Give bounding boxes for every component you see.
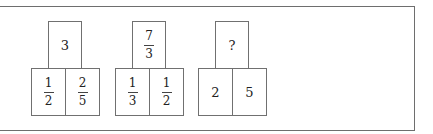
fraction-bar: [44, 92, 54, 93]
fraction: 1 3: [128, 77, 138, 108]
top-box: 3: [48, 21, 82, 69]
fraction-bar: [144, 45, 154, 46]
fraction: 1 2: [44, 77, 54, 108]
denominator: 5: [79, 95, 87, 108]
bottom-right-cell: 1 2: [149, 69, 183, 115]
bottom-right-cell: 5: [232, 69, 266, 115]
bottom-right-cell: 2 5: [65, 69, 99, 115]
numerator: 2: [79, 77, 87, 90]
bottom-left-cell: 1 2: [32, 69, 65, 115]
numerator: 1: [45, 77, 53, 90]
denominator: 2: [45, 95, 53, 108]
bottom-left-cell: 2: [199, 69, 232, 115]
fraction: 7 3: [144, 30, 154, 61]
top-value: 3: [61, 38, 69, 53]
numerator: 7: [145, 30, 153, 43]
fraction-bar: [162, 92, 172, 93]
bottom-left-cell: 1 3: [116, 69, 149, 115]
bottom-row: 1 2 2 5: [31, 68, 100, 116]
bottom-row: 2 5: [198, 68, 267, 116]
fraction-bar: [78, 92, 88, 93]
fraction: 2 5: [78, 77, 88, 108]
puzzle-group-3: ? 2 5: [198, 21, 267, 117]
numerator: 1: [163, 77, 171, 90]
puzzle-group-1: 3 1 2 2 5: [31, 21, 100, 117]
denominator: 2: [163, 95, 171, 108]
fraction: 1 2: [162, 77, 172, 108]
bottom-row: 1 3 1 2: [115, 68, 184, 116]
value: 5: [245, 85, 253, 100]
top-box: 7 3: [132, 21, 166, 69]
fraction-bar: [128, 92, 138, 93]
denominator: 3: [145, 48, 153, 61]
puzzle-group-2: 7 3 1 3 1 2: [115, 21, 184, 117]
numerator: 1: [129, 77, 137, 90]
denominator: 3: [129, 95, 137, 108]
value: 2: [211, 85, 219, 100]
top-box: ?: [215, 21, 249, 69]
unknown-value: ?: [229, 38, 236, 53]
